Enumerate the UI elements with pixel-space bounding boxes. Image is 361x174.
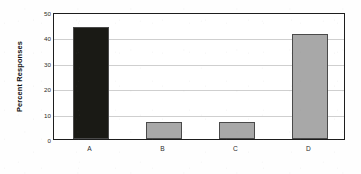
y-axis-tick-labels: 01020304050 <box>33 8 51 144</box>
y-tick-label: 30 <box>33 60 51 67</box>
bar-b <box>146 122 182 139</box>
bar-c <box>219 122 255 139</box>
y-tick-label: 40 <box>33 35 51 42</box>
y-axis-title: Percent Responses <box>13 28 27 124</box>
x-axis-tick-labels: ABCD <box>53 145 345 159</box>
y-tick-label: 50 <box>33 10 51 17</box>
x-tick-label-d: D <box>306 145 311 152</box>
y-tick-label: 20 <box>33 86 51 93</box>
bars-layer <box>54 14 344 139</box>
x-tick-label-a: A <box>87 145 92 152</box>
bar-chart-figure: Percent Responses 01020304050 ABCD <box>0 0 361 174</box>
x-tick-label-c: C <box>233 145 238 152</box>
plot-area <box>53 13 345 140</box>
bar-d <box>292 34 328 139</box>
bar-a <box>73 27 109 139</box>
x-tick-label-b: B <box>160 145 165 152</box>
y-tick-label: 0 <box>33 137 51 144</box>
y-axis-title-text: Percent Responses <box>16 40 25 111</box>
y-tick-label: 10 <box>33 111 51 118</box>
